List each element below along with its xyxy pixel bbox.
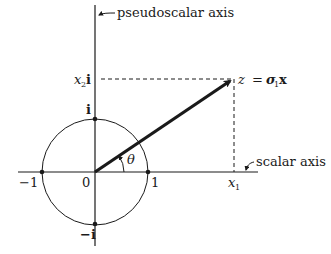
label-equals: = xyxy=(252,72,263,87)
pseudoscalar-callout-arrow xyxy=(99,13,115,15)
label-origin: 0 xyxy=(82,175,90,190)
complex-plane-diagram: pseudoscalar axis scalar axis 0 −1 1 i −… xyxy=(0,0,331,254)
scalar-callout-arrow xyxy=(246,162,254,170)
label-minus-i: −i xyxy=(80,227,96,242)
label-x2-i: i xyxy=(86,72,91,87)
vector-z xyxy=(95,81,230,172)
label-x-bold: x xyxy=(279,72,287,87)
point-i xyxy=(93,117,98,122)
label-one: 1 xyxy=(151,175,159,190)
point-one xyxy=(146,170,151,175)
angle-arc xyxy=(119,156,124,172)
point-minus-i xyxy=(93,222,98,227)
scalar-axis-label: scalar axis xyxy=(256,154,326,169)
label-theta: θ xyxy=(127,152,135,167)
point-minus-one xyxy=(40,170,45,175)
label-x1-sub: 1 xyxy=(235,183,240,192)
label-z: z xyxy=(237,72,245,87)
label-minus-one: −1 xyxy=(19,175,38,190)
pseudoscalar-axis-label: pseudoscalar axis xyxy=(117,5,234,20)
label-i: i xyxy=(86,102,91,117)
